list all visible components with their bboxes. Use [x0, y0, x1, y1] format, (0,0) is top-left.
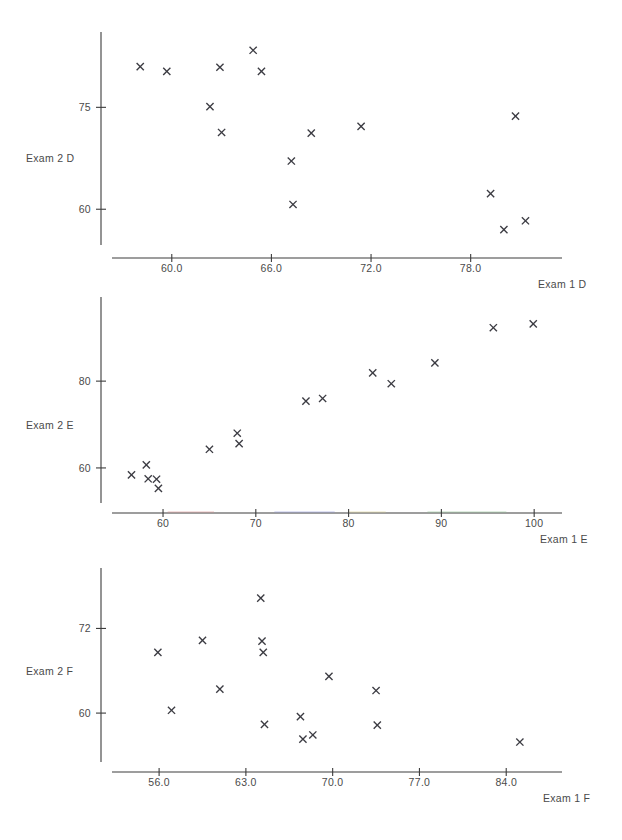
y-tick-label: 60 — [79, 462, 91, 474]
x-tick-label: 90 — [435, 517, 447, 529]
x-tick-label: 100 — [525, 517, 543, 529]
scatter-panel-d: 60.066.072.078.07560Exam 2 DExam 1 D — [0, 0, 622, 290]
x-tick-label: 66.0 — [261, 262, 283, 274]
plot-canvas-d — [0, 0, 622, 290]
x-tick-label: 70 — [250, 517, 262, 529]
data-point-marker — [297, 713, 304, 720]
y-tick-label: 60 — [79, 707, 91, 719]
data-point-marker — [530, 320, 537, 327]
data-point-marker — [257, 595, 264, 602]
data-point-marker — [309, 731, 316, 738]
plot-area-e: 607080901008060Exam 2 EExam 1 E — [0, 285, 622, 555]
data-point-marker — [216, 686, 223, 693]
x-tick-label: 56.0 — [148, 776, 170, 788]
y-tick-label: 75 — [79, 101, 91, 113]
data-point-marker — [199, 637, 206, 644]
data-point-marker — [168, 707, 175, 714]
data-point-marker — [374, 721, 381, 728]
data-point-marker — [137, 63, 144, 70]
data-point-marker — [325, 673, 332, 680]
data-point-marker — [234, 430, 241, 437]
x-tick-label: 80 — [342, 517, 354, 529]
data-point-marker — [490, 324, 497, 331]
data-point-marker — [372, 687, 379, 694]
data-point-marker — [261, 721, 268, 728]
data-point-marker — [218, 129, 225, 136]
data-point-marker — [154, 649, 161, 656]
data-point-marker — [206, 103, 213, 110]
data-point-marker — [288, 157, 295, 164]
x-axis-title: Exam 1 E — [540, 533, 588, 545]
y-axis-title: Exam 2 E — [26, 419, 74, 431]
scatter-panel-f: 56.063.070.077.084.07260Exam 2 FExam 1 F — [0, 560, 622, 840]
data-point-marker — [308, 130, 315, 137]
data-point-marker — [145, 475, 152, 482]
x-tick-label: 78.0 — [460, 262, 482, 274]
x-tick-label: 63.0 — [235, 776, 257, 788]
data-point-marker — [289, 201, 296, 208]
scatter-panel-e: 607080901008060Exam 2 EExam 1 E — [0, 285, 622, 555]
data-point-marker — [260, 649, 267, 656]
data-point-marker — [163, 68, 170, 75]
data-point-marker — [250, 47, 257, 54]
data-point-marker — [487, 190, 494, 197]
x-tick-label: 77.0 — [409, 776, 431, 788]
data-point-marker — [236, 440, 243, 447]
x-tick-label: 72.0 — [360, 262, 382, 274]
plot-area-d: 60.066.072.078.07560Exam 2 DExam 1 D — [0, 0, 622, 290]
data-point-marker — [153, 476, 160, 483]
data-point-marker — [143, 461, 150, 468]
y-tick-label: 60 — [79, 203, 91, 215]
data-point-marker — [522, 217, 529, 224]
data-point-marker — [155, 485, 162, 492]
data-point-marker — [206, 446, 213, 453]
plot-canvas-e — [0, 285, 622, 555]
y-tick-label: 80 — [79, 375, 91, 387]
x-tick-label: 60.0 — [161, 262, 183, 274]
data-point-marker — [258, 68, 265, 75]
data-point-marker — [388, 380, 395, 387]
data-point-marker — [258, 638, 265, 645]
x-tick-label: 84.0 — [495, 776, 517, 788]
data-point-marker — [369, 369, 376, 376]
data-point-marker — [302, 397, 309, 404]
data-point-marker — [431, 359, 438, 366]
data-point-marker — [299, 736, 306, 743]
data-point-marker — [500, 226, 507, 233]
data-point-marker — [512, 113, 519, 120]
y-axis-title: Exam 2 D — [26, 152, 75, 164]
scatter-plot-page: · · · · · 60.066.072.078.07560Exam 2 DEx… — [0, 0, 622, 840]
plot-area-f: 56.063.070.077.084.07260Exam 2 FExam 1 F — [0, 560, 622, 840]
data-point-marker — [357, 123, 364, 130]
plot-canvas-f — [0, 560, 622, 840]
data-point-marker — [128, 471, 135, 478]
y-axis-title: Exam 2 F — [26, 665, 73, 677]
x-tick-label: 60 — [157, 517, 169, 529]
data-point-marker — [319, 395, 326, 402]
data-point-marker — [516, 738, 523, 745]
y-tick-label: 72 — [79, 622, 91, 634]
x-tick-label: 70.0 — [322, 776, 344, 788]
data-point-marker — [216, 64, 223, 71]
x-axis-title: Exam 1 F — [543, 792, 590, 804]
